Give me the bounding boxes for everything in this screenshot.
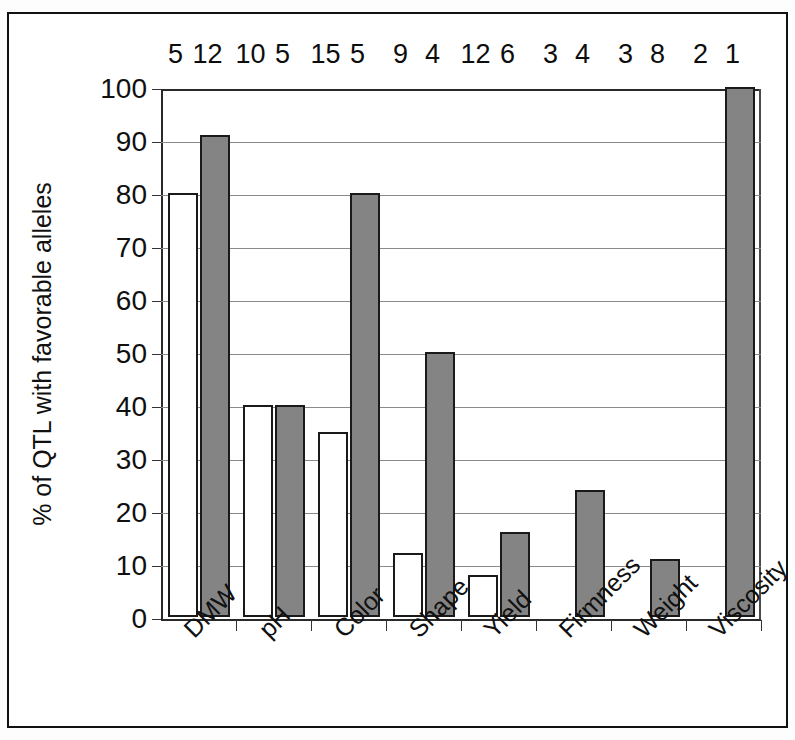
top-annotation-white-dmw: 5 <box>168 39 183 70</box>
bar-gray-color <box>350 193 380 617</box>
y-axis-tick-mark <box>152 195 161 196</box>
y-axis-line <box>161 89 163 621</box>
y-axis-tick-label: 80 <box>77 179 147 211</box>
y-axis-tick-mark <box>152 142 161 143</box>
top-annotation-white-ph: 10 <box>235 39 265 70</box>
y-axis-tick-mark <box>152 407 161 408</box>
top-annotation-gray-yield: 6 <box>500 39 515 70</box>
y-axis-tick-label: 50 <box>77 338 147 370</box>
y-axis-tick-label: 90 <box>77 126 147 158</box>
top-annotation-gray-shape: 4 <box>425 39 440 70</box>
y-axis-tick-mark <box>152 460 161 461</box>
y-axis-tick-mark <box>152 566 161 567</box>
bar-white-ph <box>243 405 273 617</box>
top-annotation-white-shape: 9 <box>393 39 408 70</box>
y-axis-tick-mark <box>152 619 161 620</box>
bar-white-color <box>318 432 348 618</box>
gridline <box>161 142 761 143</box>
y-axis-tick-label: 100 <box>77 73 147 105</box>
top-annotation-white-weight: 3 <box>618 39 633 70</box>
bar-gray-dmw <box>200 135 230 617</box>
bar-white-dmw <box>168 193 198 617</box>
chart-figure: % of QTL with favorable alleles 01020304… <box>0 0 795 740</box>
x-axis-tick-mark <box>461 620 462 631</box>
x-axis-tick-mark <box>311 620 312 631</box>
top-annotation-white-viscosity: 2 <box>693 39 708 70</box>
top-annotation-white-yield: 12 <box>460 39 490 70</box>
y-axis-tick-mark <box>152 301 161 302</box>
top-annotation-gray-dmw: 12 <box>192 39 222 70</box>
top-annotation-white-firmness: 3 <box>543 39 558 70</box>
gridline <box>161 354 761 355</box>
y-axis-tick-mark <box>152 89 161 90</box>
gridline <box>161 301 761 302</box>
top-annotation-gray-viscosity: 1 <box>725 39 740 70</box>
x-axis-tick-mark <box>761 620 762 631</box>
plot-frame-right <box>759 89 761 621</box>
x-axis-tick-mark <box>386 620 387 631</box>
gridline <box>161 195 761 196</box>
bar-gray-viscosity <box>725 87 755 617</box>
y-axis-tick-mark <box>152 248 161 249</box>
top-annotation-gray-ph: 5 <box>275 39 290 70</box>
y-axis-tick-mark <box>152 354 161 355</box>
y-axis-tick-label: 60 <box>77 285 147 317</box>
x-axis-tick-mark <box>686 620 687 631</box>
gridline <box>161 248 761 249</box>
figure-border: % of QTL with favorable alleles 01020304… <box>7 12 788 728</box>
x-axis-tick-mark <box>611 620 612 631</box>
plot-area: 0102030405060708090100 <box>161 89 761 619</box>
x-axis-tick-mark <box>236 620 237 631</box>
top-annotation-gray-weight: 8 <box>650 39 665 70</box>
top-annotation-gray-color: 5 <box>350 39 365 70</box>
y-axis-tick-label: 30 <box>77 444 147 476</box>
bar-gray-ph <box>275 405 305 617</box>
plot-frame-top <box>161 89 761 91</box>
x-axis-tick-mark <box>536 620 537 631</box>
y-axis-tick-label: 0 <box>77 603 147 635</box>
y-axis-tick-label: 20 <box>77 497 147 529</box>
y-axis-tick-label: 10 <box>77 550 147 582</box>
y-axis-tick-label: 70 <box>77 232 147 264</box>
y-axis-tick-mark <box>152 513 161 514</box>
top-annotation-gray-firmness: 4 <box>575 39 590 70</box>
top-annotation-white-color: 15 <box>310 39 340 70</box>
y-axis-tick-label: 40 <box>77 391 147 423</box>
y-axis-title: % of QTL with favorable alleles <box>23 89 61 619</box>
